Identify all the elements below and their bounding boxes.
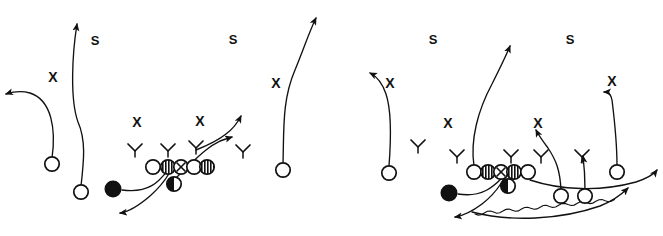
- route-left-inside-vertical: [73, 24, 84, 186]
- labels-layer: SSXXXXSSXXXX: [48, 32, 617, 131]
- left-play-player-wide-receiver-right-wr2: [276, 163, 290, 177]
- route-slot2-vertical: [583, 156, 585, 190]
- right-play-player-slot-receiver-outer-wr2: [578, 189, 592, 203]
- right-play-player-open-lm0: [467, 165, 481, 179]
- play-diagram-svg: SSXXXXSSXXXX: [0, 0, 663, 236]
- chevron-down-icon: [128, 144, 142, 151]
- open-circle-icon: [578, 189, 592, 203]
- right-play-player-ball-carrier-bk1: [441, 185, 457, 201]
- route-slot-out-up: [536, 130, 561, 190]
- left-play-chevron-1: [161, 144, 175, 157]
- striped-circle-icon: [200, 160, 214, 174]
- chevron-down-icon: [534, 150, 548, 157]
- right-play-player-wide-receiver-right-wr3: [610, 165, 624, 179]
- right-play-label-safety-1: S: [566, 32, 575, 47]
- motion-squiggle: [475, 199, 615, 215]
- open-circle-icon: [382, 166, 396, 180]
- open-circle-icon: [521, 165, 535, 179]
- open-circle-icon: [610, 165, 624, 179]
- right-play-chevron-2: [504, 150, 518, 163]
- left-play-label-safety-0: S: [91, 33, 100, 48]
- right-play-chevron-1: [450, 150, 464, 163]
- open-circle-icon: [146, 160, 160, 174]
- route-left-outside-deep-out: [6, 91, 53, 158]
- route-right-wr-comeback: [604, 92, 617, 166]
- route-perimeter-arc: [530, 170, 657, 189]
- right-play-player-open-lm4: [521, 165, 535, 179]
- filled-circle-icon: [441, 185, 457, 201]
- play-diagram-canvas: SSXXXXSSXXXX: [0, 0, 663, 236]
- chevron-down-icon: [575, 150, 589, 157]
- chevron-down-icon: [411, 140, 425, 147]
- open-circle-icon: [276, 163, 290, 177]
- right-play-label-safety-0: S: [429, 32, 438, 47]
- chevron-down-icon: [189, 141, 203, 148]
- open-circle-icon: [467, 165, 481, 179]
- left-play-label-defender-4: X: [132, 114, 142, 130]
- left-play-player-open-lm0: [146, 160, 160, 174]
- chevron-down-icon: [236, 145, 250, 152]
- right-play-chevron-4: [575, 150, 589, 163]
- left-play-label-defender-2: X: [48, 69, 58, 85]
- open-circle-icon: [554, 189, 568, 203]
- filled-circle-icon: [105, 181, 121, 197]
- route-right-wr-vertical: [283, 18, 316, 164]
- route-ballcarrier-sweep: [120, 168, 171, 213]
- right-play-label-defender-2: X: [385, 75, 395, 91]
- right-play-player-slot-receiver-inner-wr1: [554, 189, 568, 203]
- players-layer: [45, 140, 624, 203]
- open-circle-icon: [74, 185, 88, 199]
- right-play-chevron-3: [534, 150, 548, 163]
- left-play-label-safety-1: S: [229, 32, 238, 47]
- right-play-player-striped-lm3: [507, 165, 521, 179]
- left-play-chevron-0: [128, 144, 142, 157]
- left-play-player-fullback-bk0: [167, 177, 181, 191]
- left-play-player-wide-receiver-left-inside-wr1: [74, 185, 88, 199]
- left-play-player-ball-carrier-bk1: [105, 181, 121, 197]
- chevron-down-icon: [504, 150, 518, 157]
- route-motion-jet: [472, 188, 628, 218]
- left-play-label-defender-5: X: [195, 113, 205, 129]
- route-ballcarrier-sweep-r: [455, 177, 504, 217]
- striped-circle-icon: [507, 165, 521, 179]
- right-play-player-wide-receiver-left-wr0: [382, 166, 396, 180]
- route-center-vertical: [473, 46, 510, 166]
- open-circle-icon: [45, 157, 59, 171]
- motion-squiggle-path: [475, 199, 615, 215]
- right-play-label-defender-5: X: [533, 115, 543, 131]
- left-play-label-defender-3: X: [271, 75, 281, 91]
- left-play-player-striped-lm4: [200, 160, 214, 174]
- right-play-label-defender-4: X: [443, 115, 453, 131]
- left-play-chevron-3: [236, 145, 250, 158]
- right-play-player-fullback-bk0: [501, 179, 515, 193]
- chevron-down-icon: [161, 144, 175, 151]
- right-play-chevron-0: [411, 140, 425, 153]
- left-play-player-wide-receiver-left-outside-wr0: [45, 157, 59, 171]
- chevron-down-icon: [450, 150, 464, 157]
- right-play-label-defender-3: X: [607, 73, 617, 89]
